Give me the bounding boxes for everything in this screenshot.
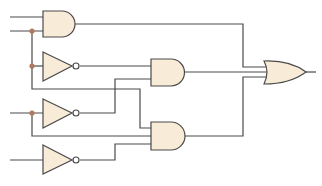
- and3-output-wire: [184, 77, 266, 136]
- junction-dot-c: [29, 110, 34, 115]
- and-gate-3: [151, 122, 185, 150]
- not-gate-1: [43, 52, 72, 81]
- not-gate-2: [43, 99, 72, 128]
- and-gate-2: [151, 59, 185, 86]
- or-gate: [264, 61, 306, 84]
- not-gate-3: [43, 145, 72, 174]
- junction-dot-b: [29, 28, 34, 33]
- junction-dot-not1: [29, 63, 34, 68]
- not-bubble-2: [73, 110, 79, 116]
- not3-output-wire: [80, 144, 151, 160]
- not-bubble-1: [73, 63, 79, 69]
- not-bubble-3: [73, 157, 79, 163]
- and-gate-1: [43, 11, 75, 37]
- logic-circuit-diagram: [0, 0, 322, 186]
